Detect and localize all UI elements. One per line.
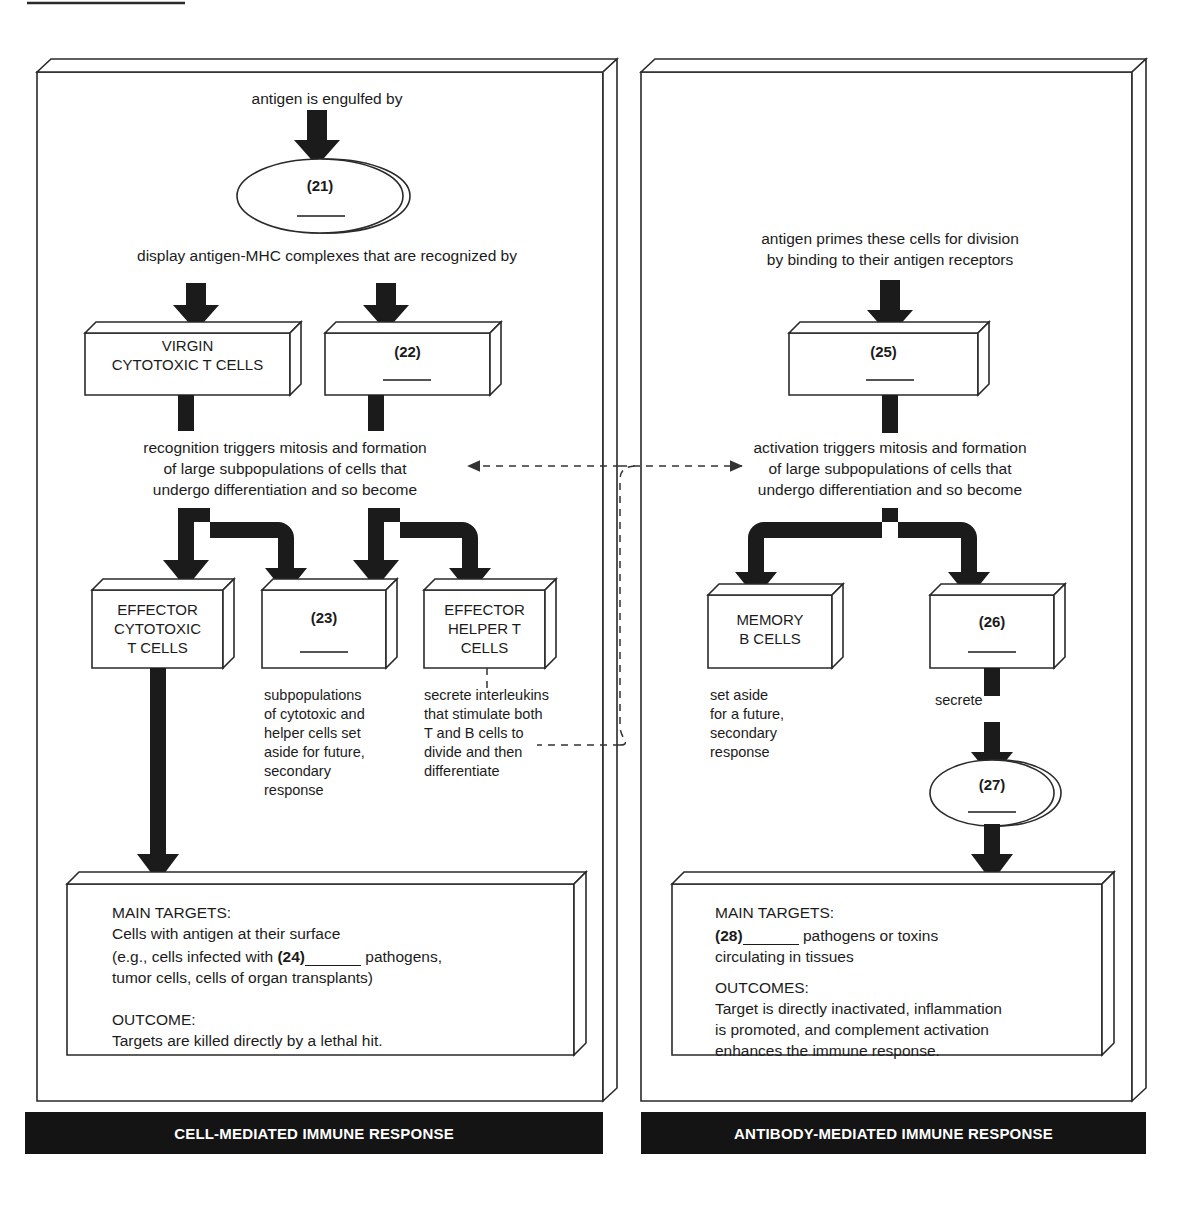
stem-virgin — [178, 395, 194, 431]
note-memory-line1: set aside — [710, 686, 870, 705]
box-effector-cytotoxic-label: EFFECTOR CYTOTOXIC T CELLS — [92, 600, 223, 657]
summary-right-targets-line1: (28) pathogens or toxins — [715, 923, 1115, 946]
note-23-line5: secondary — [264, 762, 424, 781]
note-23: subpopulations of cytotoxic and helper c… — [264, 686, 424, 800]
note-23-line4: aside for future, — [264, 743, 424, 762]
summary-right-spacer — [715, 967, 1115, 977]
stem-box25 — [882, 395, 898, 433]
note-23-line6: response — [264, 781, 424, 800]
summary-right-heading-outcome: OUTCOMES: — [715, 977, 1115, 998]
ellipse-21-label: (21) — [240, 176, 400, 195]
box-eff-cyto-line3: T CELLS — [92, 638, 223, 657]
blank-number-24: (24) — [277, 948, 305, 965]
figure-canvas: .s{fill:none;stroke:#2a2a2a;stroke-width… — [0, 0, 1185, 1208]
caption-antigen-primes: antigen primes these cells for division … — [710, 228, 1070, 270]
fork-arrow-right — [882, 508, 898, 522]
summary-right-outcome-line1: Target is directly inactivated, inflamma… — [715, 998, 1115, 1019]
box-virgin-label: VIRGIN CYTOTOXIC T CELLS — [85, 336, 290, 374]
note-helper-line1: secrete interleukins — [424, 686, 594, 705]
note-23-line1: subpopulations — [264, 686, 424, 705]
summary-right-targets-line1-b: pathogens or toxins — [799, 927, 939, 944]
note-23-line3: helper cells set — [264, 724, 424, 743]
box-26-label: (26) — [930, 612, 1054, 631]
note-memory-b: set aside for a future, secondary respon… — [710, 686, 870, 762]
box-eff-cyto-line1: EFFECTOR — [92, 600, 223, 619]
box-virgin-line1: VIRGIN — [85, 336, 290, 355]
caption-left-branch: recognition triggers mitosis and formati… — [110, 437, 460, 500]
summary-left-targets-line3: tumor cells, cells of organ transplants) — [112, 967, 572, 988]
summary-left-targets-line1: Cells with antigen at their surface — [112, 923, 572, 944]
summary-left-targets-line2-b: pathogens, — [361, 948, 442, 965]
caption-right-branch: activation triggers mitosis and formatio… — [715, 437, 1065, 500]
summary-right-outcome-line3: enhances the immune response. — [715, 1040, 1115, 1061]
summary-left-outcome-line1: Targets are killed directly by a lethal … — [112, 1030, 572, 1051]
caption-right-branch-line2: of large subpopulations of cells that — [715, 458, 1065, 479]
caption-left-branch-line3: undergo differentiation and so become — [110, 479, 460, 500]
box-eff-cyto-line2: CYTOTOXIC — [92, 619, 223, 638]
box-22-label: (22) — [325, 342, 490, 361]
ellipse-27-label: (27) — [912, 775, 1072, 794]
stem-box22 — [368, 395, 384, 431]
summary-right-outcome-line2: is promoted, and complement activation — [715, 1019, 1115, 1040]
box-memory-line2: B CELLS — [708, 629, 832, 648]
banner-antibody-mediated: ANTIBODY-MEDIATED IMMUNE RESPONSE — [641, 1112, 1146, 1154]
box-23-label: (23) — [262, 608, 386, 627]
note-helper-line4: divide and then — [424, 743, 594, 762]
summary-left-text: MAIN TARGETS: Cells with antigen at thei… — [112, 902, 572, 1051]
caption-primes-line2: by binding to their antigen receptors — [710, 249, 1070, 270]
note-23-line2: of cytotoxic and — [264, 705, 424, 724]
note-memory-line2: for a future, — [710, 705, 870, 724]
caption-primes-line1: antigen primes these cells for division — [710, 228, 1070, 249]
fill-blank-28 — [743, 923, 799, 945]
box-eff-helper-line3: CELLS — [424, 638, 545, 657]
banner-cell-mediated: CELL-MEDIATED IMMUNE RESPONSE — [25, 1112, 603, 1154]
summary-left-heading-outcome: OUTCOME: — [112, 1009, 572, 1030]
summary-right-text: MAIN TARGETS: (28) pathogens or toxins c… — [715, 902, 1115, 1061]
summary-left-spacer — [112, 988, 572, 1009]
note-memory-line3: secondary — [710, 724, 870, 743]
caption-antigen-engulfed: antigen is engulfed by — [147, 88, 507, 109]
note-helper-line5: differentiate — [424, 762, 594, 781]
note-helper-line3: T and B cells to — [424, 724, 594, 743]
box-25-label: (25) — [789, 342, 978, 361]
fill-blank-24 — [305, 944, 361, 966]
note-effector-helper: secrete interleukins that stimulate both… — [424, 686, 594, 781]
box-virgin-line2: CYTOTOXIC T CELLS — [85, 355, 290, 374]
summary-right-heading-targets: MAIN TARGETS: — [715, 902, 1115, 923]
summary-right-targets-line2: circulating in tissues — [715, 946, 1115, 967]
caption-display-mhc: display antigen-MHC complexes that are r… — [57, 245, 597, 266]
box-eff-helper-line1: EFFECTOR — [424, 600, 545, 619]
caption-left-branch-line2: of large subpopulations of cells that — [110, 458, 460, 479]
summary-left-heading-targets: MAIN TARGETS: — [112, 902, 572, 923]
note-memory-line4: response — [710, 743, 870, 762]
caption-right-branch-line1: activation triggers mitosis and formatio… — [715, 437, 1065, 458]
box-effector-helper-label: EFFECTOR HELPER T CELLS — [424, 600, 545, 657]
box-eff-helper-line2: HELPER T — [424, 619, 545, 638]
note-helper-line2: that stimulate both — [424, 705, 594, 724]
blank-number-28: (28) — [715, 927, 743, 944]
summary-left-targets-line2-a: (e.g., cells infected with — [112, 948, 277, 965]
caption-right-branch-line3: undergo differentiation and so become — [715, 479, 1065, 500]
box-memory-b-label: MEMORY B CELLS — [708, 610, 832, 648]
label-secrete: secrete — [935, 691, 1045, 710]
box-memory-line1: MEMORY — [708, 610, 832, 629]
caption-left-branch-line1: recognition triggers mitosis and formati… — [110, 437, 460, 458]
summary-left-targets-line2: (e.g., cells infected with (24) pathogen… — [112, 944, 572, 967]
